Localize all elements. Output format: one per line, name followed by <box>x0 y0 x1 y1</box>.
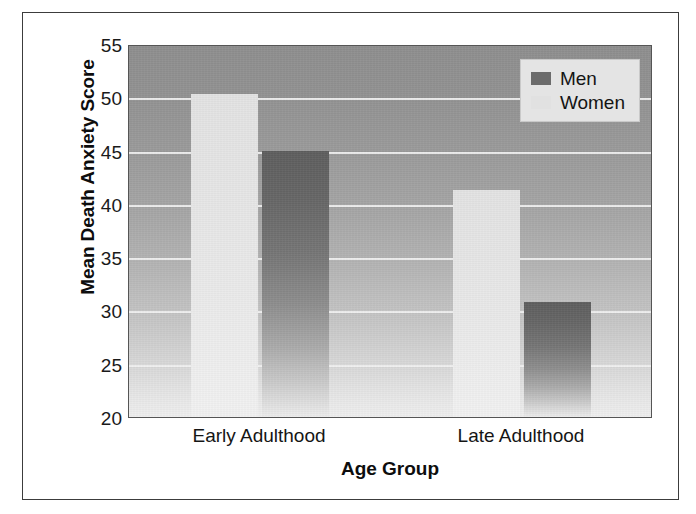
legend-item-women: Women <box>531 90 625 114</box>
legend-label-women: Women <box>560 93 625 112</box>
y-axis-tick-label: 20 <box>78 409 122 428</box>
y-axis-tick-label: 45 <box>78 142 122 161</box>
figure-canvas: Mean Death Anxiety Score 555045403530252… <box>0 0 696 514</box>
bar-men-late-adulthood <box>524 302 591 417</box>
x-axis-tick-label: Early Adulthood <box>192 425 325 447</box>
bar-women-early-adulthood <box>191 94 258 417</box>
bar-women-late-adulthood <box>453 190 520 417</box>
legend-label-men: Men <box>560 69 597 88</box>
x-axis-title: Age Group <box>128 458 652 480</box>
legend-item-men: Men <box>531 66 625 90</box>
y-axis-tick-label: 40 <box>78 195 122 214</box>
x-axis-tick-labels: Early AdulthoodLate Adulthood <box>128 425 652 451</box>
y-axis-tick-labels: 5550454035302520 <box>72 45 122 418</box>
legend-swatch-women-icon <box>531 96 551 109</box>
bar-men-early-adulthood <box>262 151 329 417</box>
y-axis-tick-label: 55 <box>78 36 122 55</box>
y-axis-tick-label: 25 <box>78 355 122 374</box>
legend-swatch-men-icon <box>531 72 551 85</box>
x-axis-tick-label: Late Adulthood <box>458 425 585 447</box>
y-axis-tick-label: 35 <box>78 249 122 268</box>
legend: Men Women <box>520 59 640 122</box>
y-axis-tick-label: 30 <box>78 302 122 321</box>
y-axis-tick-label: 50 <box>78 89 122 108</box>
plot-area: Men Women <box>128 45 652 418</box>
